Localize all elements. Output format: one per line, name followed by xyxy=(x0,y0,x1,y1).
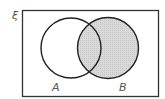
set-a-label: A xyxy=(51,81,60,94)
universal-set-label: ξ xyxy=(11,9,19,22)
set-b-label: B xyxy=(119,81,127,94)
venn-diagram: ξ A B xyxy=(0,0,165,99)
